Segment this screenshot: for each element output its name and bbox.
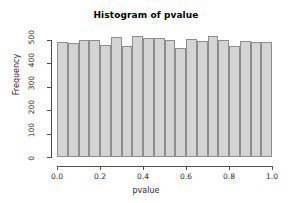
histogram-bar xyxy=(143,38,154,157)
x-tick-mark xyxy=(143,166,144,170)
x-tick-label: 0.0 xyxy=(44,172,70,181)
x-tick-mark xyxy=(100,166,101,170)
histogram-bar xyxy=(261,42,272,157)
x-tick-mark xyxy=(272,166,273,170)
histogram-bar xyxy=(122,46,133,157)
x-axis-line xyxy=(57,166,272,167)
x-axis-label: pvalue xyxy=(0,186,292,195)
x-tick-label: 0.6 xyxy=(173,172,199,181)
plot-area xyxy=(57,30,272,157)
histogram-bar xyxy=(132,36,143,157)
x-tick-mark xyxy=(186,166,187,170)
histogram-bar xyxy=(79,40,90,157)
histogram-bar xyxy=(218,40,229,157)
histogram-bar xyxy=(197,41,208,157)
histogram-bar xyxy=(175,48,186,157)
histogram-plot: Histogram of pvalue 0100200300400500 0.0… xyxy=(0,0,292,203)
y-tick-label: 0 xyxy=(27,156,36,161)
y-axis-label: Frequency xyxy=(12,45,21,105)
histogram-bar xyxy=(240,41,251,157)
x-tick-label: 0.2 xyxy=(87,172,113,181)
x-tick-label: 0.8 xyxy=(216,172,242,181)
histogram-bar xyxy=(208,36,219,157)
histogram-bar xyxy=(89,40,100,157)
histogram-bar xyxy=(68,43,79,157)
y-tick-mark xyxy=(47,110,51,111)
histogram-bar xyxy=(251,42,262,157)
y-tick-mark xyxy=(47,134,51,135)
chart-title: Histogram of pvalue xyxy=(0,10,292,20)
y-tick-mark xyxy=(47,157,51,158)
x-tick-label: 1.0 xyxy=(259,172,285,181)
y-axis-line xyxy=(51,40,52,158)
y-tick-label: 500 xyxy=(27,30,36,44)
y-tick-label: 300 xyxy=(27,76,36,90)
x-tick-label: 0.4 xyxy=(130,172,156,181)
histogram-bar xyxy=(154,38,165,157)
y-tick-mark xyxy=(47,40,51,41)
histogram-bar xyxy=(165,40,176,157)
y-tick-mark xyxy=(47,63,51,64)
histogram-bar xyxy=(186,39,197,157)
x-tick-mark xyxy=(229,166,230,170)
y-tick-label: 200 xyxy=(27,100,36,114)
histogram-bar xyxy=(229,46,240,157)
y-tick-label: 400 xyxy=(27,53,36,67)
x-tick-mark xyxy=(57,166,58,170)
histogram-bar xyxy=(111,37,122,157)
y-tick-mark xyxy=(47,87,51,88)
histogram-bar xyxy=(57,42,68,157)
histogram-bar xyxy=(100,45,111,157)
y-tick-label: 100 xyxy=(27,123,36,137)
